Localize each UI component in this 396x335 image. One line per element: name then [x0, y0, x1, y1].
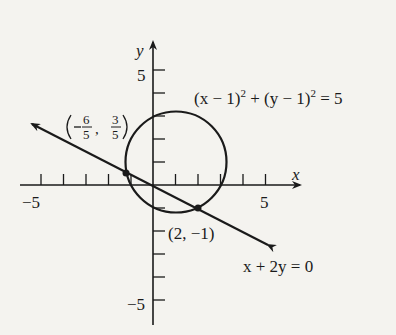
- point-label-2: (2, −1): [168, 224, 214, 243]
- point-label-1: 6 5 , 3 5: [67, 112, 127, 142]
- intersection-point-1: [123, 170, 130, 177]
- circle-equation: (x − 1)2 + (y − 1)2 = 5: [194, 87, 343, 108]
- tick-label-y-neg5: −5: [127, 295, 145, 314]
- tick-label-x-neg5: −5: [22, 193, 40, 212]
- x-axis-label: x: [291, 165, 300, 184]
- tick-label-y-5: 5: [137, 66, 146, 85]
- svg-text:6: 6: [83, 112, 90, 127]
- tick-label-x-5: 5: [260, 193, 269, 212]
- graph: x y −5 5 5 −5 (x − 1)2 + (y − 1)2 = 5 x …: [0, 0, 396, 335]
- y-axis-label: y: [134, 41, 144, 60]
- intersection-point-2: [195, 205, 202, 212]
- svg-text:5: 5: [112, 127, 119, 142]
- svg-text:5: 5: [83, 127, 90, 142]
- svg-text:,: ,: [95, 121, 99, 137]
- line-equation: x + 2y = 0: [243, 257, 313, 276]
- svg-text:3: 3: [112, 112, 119, 127]
